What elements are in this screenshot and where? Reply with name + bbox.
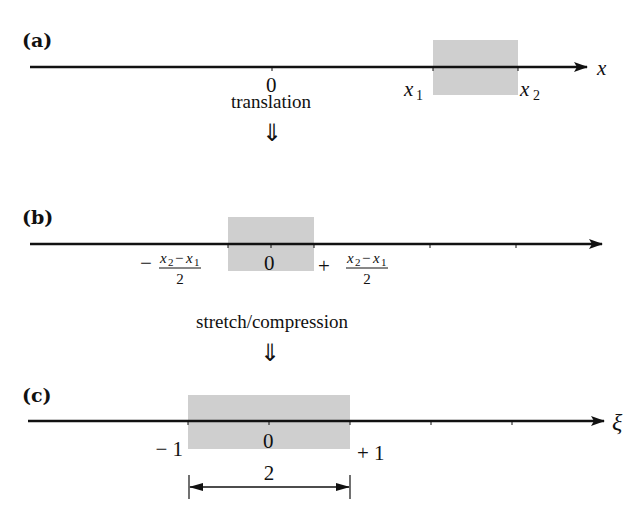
- step-stretch-compression: stretch/compression ⇓: [196, 311, 348, 366]
- svg-text:1: 1: [416, 88, 423, 103]
- fraction-numerator: x 2 − x 1: [159, 250, 200, 268]
- minus-one-label: − 1: [155, 437, 183, 461]
- svg-text:2: 2: [533, 88, 540, 103]
- svg-text:2: 2: [355, 256, 361, 268]
- panel-a: (a) x 0 x 1 x 2: [22, 29, 607, 103]
- svg-text:x: x: [403, 77, 414, 101]
- origin-label: 0: [264, 251, 275, 275]
- panel-b-label: (b): [22, 206, 53, 228]
- fraction-denominator: 2: [363, 271, 371, 287]
- interval-mapping-figure: (a) x 0 x 1 x 2 translation ⇓ (b) 0: [0, 0, 643, 522]
- double-down-arrow-icon: ⇓: [262, 120, 282, 146]
- fraction-denominator: 2: [176, 271, 184, 287]
- step-translation: translation ⇓: [231, 91, 312, 146]
- svg-text:x: x: [372, 250, 380, 266]
- panel-c-label: (c): [22, 384, 52, 406]
- svg-text:x: x: [346, 250, 354, 266]
- svg-text:x: x: [519, 77, 530, 101]
- stretch-compression-caption: stretch/compression: [196, 311, 348, 332]
- origin-label: 0: [263, 429, 274, 453]
- width-dimension: 2: [189, 461, 350, 499]
- svg-text:−: −: [140, 251, 152, 275]
- double-down-arrow-icon: ⇓: [260, 340, 280, 366]
- svg-text:2: 2: [168, 256, 174, 268]
- xi-axis-label: ξ: [612, 409, 623, 435]
- x1-label: x 1: [403, 77, 423, 103]
- svg-text:x: x: [185, 250, 193, 266]
- plus-one-label: + 1: [357, 441, 385, 465]
- svg-text:x: x: [159, 250, 167, 266]
- translation-caption: translation: [231, 91, 312, 112]
- svg-text:−: −: [175, 250, 183, 266]
- panel-b: (b) 0 − x 2 − x 1 2 + x 2: [22, 206, 602, 287]
- svg-text:1: 1: [194, 256, 200, 268]
- panel-a-label: (a): [22, 29, 52, 51]
- svg-text:−: −: [362, 250, 370, 266]
- fraction-numerator: x 2 − x 1: [346, 250, 387, 268]
- svg-text:+: +: [318, 254, 330, 278]
- svg-text:1: 1: [381, 256, 387, 268]
- right-endpoint-label: + x 2 − x 1 2: [318, 250, 388, 287]
- panel-c: (c) ξ 0 − 1 + 1 2: [22, 384, 623, 499]
- x2-label: x 2: [519, 77, 540, 103]
- left-endpoint-label: − x 2 − x 1 2: [140, 250, 201, 287]
- x-axis-label: x: [596, 56, 607, 80]
- width-label: 2: [264, 461, 275, 485]
